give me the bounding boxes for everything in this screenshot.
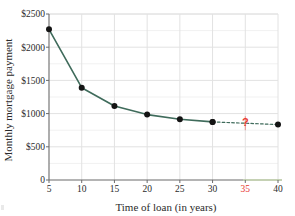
chart-annotations: ? (242, 116, 249, 130)
chart-svg: ? 0$500$1000$1500$2000$2500 510152025303… (0, 0, 295, 216)
unknown-value-question-mark: ? (242, 116, 249, 128)
data-point (46, 26, 52, 32)
x-tick-label-highlighted: 35 (241, 184, 251, 194)
y-tick-label: $2000 (21, 43, 45, 53)
x-tick-label: 30 (208, 184, 218, 194)
y-tick-label: $1500 (21, 76, 45, 86)
data-point (177, 116, 183, 122)
mortgage-payment-line-chart: ? 0$500$1000$1500$2000$2500 510152025303… (0, 0, 295, 216)
y-axis-tick-labels: 0$500$1000$1500$2000$2500 (21, 9, 49, 185)
x-tick-label: 40 (273, 184, 283, 194)
x-tick-label: 10 (77, 184, 87, 194)
y-tick-label: $500 (26, 142, 45, 152)
data-point (111, 103, 117, 109)
data-point (275, 122, 281, 128)
y-tick-label: $2500 (21, 9, 45, 19)
y-tick-label: 0 (40, 175, 45, 185)
x-tick-label: 15 (110, 184, 120, 194)
x-axis-tick-labels: 510152025303540 (47, 180, 283, 194)
data-point (144, 112, 150, 118)
data-point (79, 85, 85, 91)
data-point (210, 119, 216, 125)
y-tick-label: $1000 (21, 109, 45, 119)
x-axis-title: Time of loan (in years) (115, 201, 216, 214)
x-tick-label: 25 (175, 184, 185, 194)
x-tick-label: 20 (142, 184, 152, 194)
y-axis-title: Monthly mortgage payment (2, 39, 14, 162)
corner-artifact (1, 205, 4, 210)
x-tick-label: 5 (47, 184, 52, 194)
